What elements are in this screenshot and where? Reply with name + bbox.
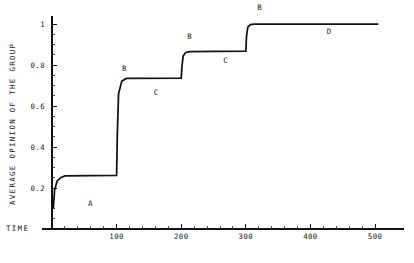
x-tick-label: 500 bbox=[368, 232, 383, 241]
y-axis-group: 0.20.40.60.81 bbox=[30, 16, 57, 229]
y-axis-major-ticks bbox=[52, 24, 57, 188]
y-axis-title: AVERAGE OPINION OF THE GROUP bbox=[8, 43, 17, 205]
transition-b1-label: B bbox=[122, 64, 127, 73]
plateau-d-label: D bbox=[327, 27, 331, 36]
step-chart-svg: 0.20.40.60.81 100200300400500 AVERAGE OP… bbox=[0, 0, 414, 263]
transition-b2-label: B bbox=[187, 32, 192, 41]
plateau-c2-label: C bbox=[223, 56, 227, 65]
y-tick-label: 0.8 bbox=[30, 61, 45, 70]
y-tick-label: 0.6 bbox=[30, 102, 45, 111]
y-tick-label: 0.2 bbox=[30, 184, 45, 193]
x-tick-label: 400 bbox=[303, 232, 318, 241]
opinion-step-curve bbox=[53, 24, 378, 208]
x-tick-label: 100 bbox=[109, 232, 124, 241]
y-axis-tick-labels: 0.20.40.60.81 bbox=[30, 20, 45, 193]
x-axis-group: 100200300400500 bbox=[42, 224, 404, 241]
plateau-c1-label: C bbox=[154, 88, 158, 97]
x-tick-label: 300 bbox=[239, 232, 254, 241]
x-tick-label: 200 bbox=[174, 232, 189, 241]
plateau-a-label: A bbox=[88, 199, 93, 208]
phase-annotations: ABCBCBD bbox=[88, 3, 331, 208]
transition-b3-label: B bbox=[257, 3, 262, 12]
x-axis-tick-labels: 100200300400500 bbox=[109, 232, 382, 241]
x-axis-major-ticks bbox=[52, 224, 375, 229]
y-tick-label: 0.4 bbox=[30, 143, 45, 152]
y-tick-label: 1 bbox=[40, 20, 45, 29]
chart-container: 0.20.40.60.81 100200300400500 AVERAGE OP… bbox=[0, 0, 414, 263]
x-axis-title: TIME bbox=[6, 224, 29, 233]
